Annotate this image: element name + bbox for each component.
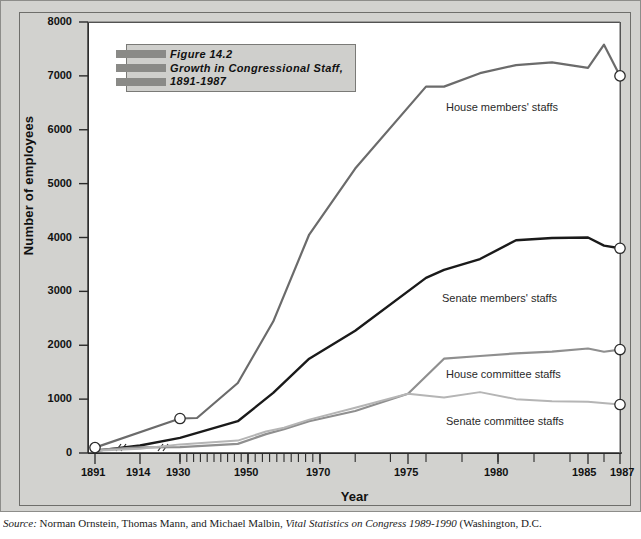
figure-title-line-2: Growth in Congressional Staff, bbox=[170, 62, 343, 76]
endpoint-marker-house-committee-staffs bbox=[615, 344, 625, 354]
start-marker-house-members-1930 bbox=[175, 413, 185, 423]
series-label-house-members: House members' staffs bbox=[446, 101, 558, 113]
series-label-house-committee: House committee staffs bbox=[446, 368, 561, 380]
endpoint-marker-house-members-staffs bbox=[615, 71, 625, 81]
y-tick-label-7000: 7000 bbox=[16, 69, 72, 81]
x-tick-label-1985: 1985 bbox=[572, 466, 596, 478]
x-tick-label-1980: 1980 bbox=[484, 466, 508, 478]
figure-title-line-3: 1891-1987 bbox=[170, 75, 343, 89]
figure-title-text: Figure 14.2 Growth in Congressional Staf… bbox=[170, 48, 343, 89]
title-bar-3 bbox=[116, 78, 166, 86]
source-prefix: Source: bbox=[3, 517, 37, 529]
x-axis-title: Year bbox=[88, 489, 621, 504]
x-tick-label-1891: 1891 bbox=[81, 466, 105, 478]
endpoint-markers bbox=[90, 71, 625, 453]
y-axis-title: Number of employees bbox=[21, 96, 36, 276]
y-tick-label-2000: 2000 bbox=[16, 338, 72, 350]
endpoint-marker-senate-committee-staffs bbox=[615, 399, 625, 409]
series-label-senate-committee: Senate committee staffs bbox=[446, 415, 564, 427]
y-tick-label-3000: 3000 bbox=[16, 284, 72, 296]
y-tick-label-0: 0 bbox=[16, 446, 72, 458]
series-line-house-committee-staffs bbox=[95, 348, 620, 449]
figure-title-bars bbox=[116, 50, 166, 87]
series-label-senate-members: Senate members' staffs bbox=[442, 292, 557, 304]
y-tick-label-8000: 8000 bbox=[16, 15, 72, 27]
endpoint-marker-senate-members-staffs bbox=[615, 243, 625, 253]
title-bar-1 bbox=[116, 50, 166, 58]
source-authors: Norman Ornstein, Thomas Mann, and Michae… bbox=[40, 517, 283, 529]
x-tick-label-1970: 1970 bbox=[306, 466, 330, 478]
y-tick-label-1000: 1000 bbox=[16, 392, 72, 404]
figure-number: Figure 14.2 bbox=[170, 48, 343, 62]
x-tick-label-1987: 1987 bbox=[610, 466, 634, 478]
x-tick-label-1950: 1950 bbox=[234, 466, 258, 478]
source-note: Source: Norman Ornstein, Thomas Mann, an… bbox=[3, 517, 641, 530]
title-bar-2 bbox=[116, 64, 166, 72]
source-title: Vital Statistics on Congress 1989-1990 bbox=[286, 517, 457, 529]
x-tick-label-1914: 1914 bbox=[126, 466, 150, 478]
x-tick-label-1975: 1975 bbox=[394, 466, 418, 478]
figure-page: 010002000300040005000600070008000 189119… bbox=[0, 0, 641, 539]
source-publisher: (Washington, D.C. bbox=[459, 517, 541, 529]
x-tick-label-1930: 1930 bbox=[166, 466, 190, 478]
start-marker-1891 bbox=[90, 442, 100, 452]
